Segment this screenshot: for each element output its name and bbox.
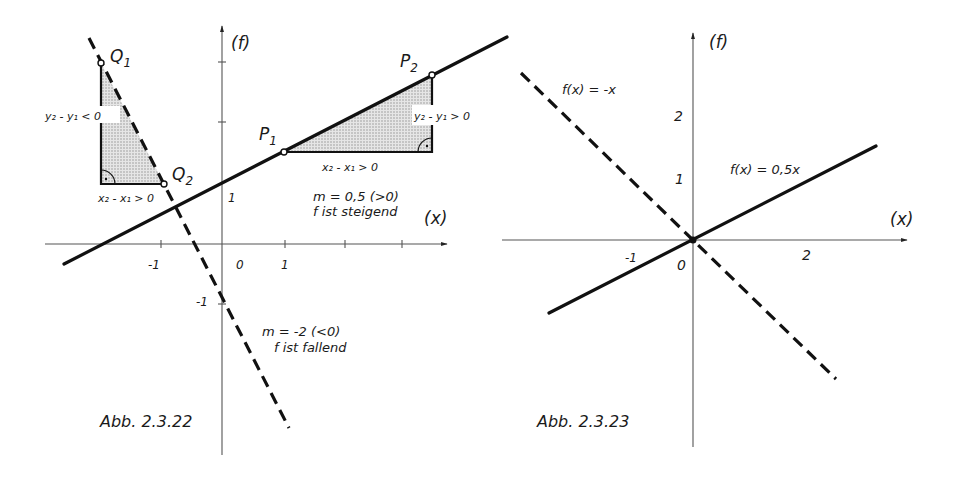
falling-line [89,38,289,428]
y-axis-label: (f) [709,32,728,52]
dy-negative-label: y₂ - y₁ < 0 [44,110,101,123]
right-angle-dot-icon [105,178,107,180]
dy-positive-label: y₂ - y₁ > 0 [413,110,470,123]
label-f-neg-x: f(x) = -x [562,82,616,97]
label-f-half-x: f(x) = 0,5x [730,162,800,177]
point-q1 [98,60,104,66]
point-p2 [429,72,435,78]
y-tick-label: -1 [196,295,208,309]
falling-slope-label: m = -2 (<0) [262,324,340,339]
rising-description: f ist steigend [313,204,398,219]
x-tick-label: 1 [281,258,289,272]
figure-left: (f) (x) -1 0 1 1 -1 Q1 Q2 P1 P2 y₂ - y₁ … [44,26,507,455]
origin-point [690,237,697,244]
x-tick-label: 0 [236,258,244,272]
label-p2: P2 [400,51,418,75]
falling-description: f ist fallend [274,340,347,355]
dx-positive-p-label: x₂ - x₁ > 0 [321,161,378,174]
right-angle-dot-icon [426,145,428,147]
figure-caption: Abb. 2.3.23 [536,412,629,431]
x-axis-label: (x) [890,209,913,229]
figure-caption: Abb. 2.3.22 [99,412,192,431]
rising-slope-label: m = 0,5 (>0) [313,189,399,204]
x-axis-label: (x) [424,208,447,228]
y-tick-label: 1 [228,191,236,205]
label-q2: Q2 [172,164,193,188]
diagram-canvas: (f) (x) -1 0 1 1 -1 Q1 Q2 P1 P2 y₂ - y₁ … [0,0,955,479]
x-tick-label: 2 [802,247,811,263]
x-tick-label: -1 [148,258,160,272]
point-p1 [281,149,287,155]
line-f-half-x [549,146,876,313]
label-p1: P1 [259,124,277,148]
y-tick-label: 2 [674,108,683,124]
point-q2 [161,181,167,187]
dx-positive-q-label: x₂ - x₁ > 0 [97,192,154,205]
x-tick-label: -1 [625,251,637,265]
label-q1: Q1 [110,46,131,70]
figure-right: (f) (x) -1 0 2 1 2 f(x) = -x f(x) = 0,5x… [502,32,913,447]
origin-label: 0 [677,257,686,273]
y-axis-label: (f) [231,33,250,53]
y-tick-label: 1 [675,171,684,187]
